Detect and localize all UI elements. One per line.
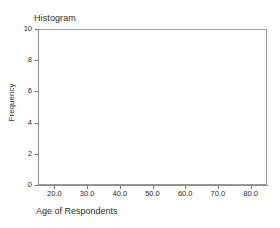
y-tick-mark — [35, 123, 38, 124]
y-tick-label: 6 — [28, 87, 32, 95]
y-tick-mark — [35, 60, 38, 61]
x-tick-label: 40.0 — [112, 190, 127, 198]
y-tick-label: 0 — [28, 181, 32, 189]
x-tick-label: 30.0 — [80, 190, 95, 198]
bars-layer — [39, 30, 266, 184]
y-tick-mark — [35, 29, 38, 30]
y-tick-mark — [35, 154, 38, 155]
y-tick-label: 2 — [28, 150, 32, 158]
x-tick-label: 80.0 — [243, 190, 258, 198]
y-tick-label: 8 — [28, 56, 32, 64]
x-axis-title: Age of Respondents — [36, 206, 118, 216]
x-tick-label: 70.0 — [211, 190, 226, 198]
x-tick-label: 50.0 — [145, 190, 160, 198]
x-tick-label: 60.0 — [178, 190, 193, 198]
plot-area — [38, 29, 267, 185]
chart-title: Histogram — [34, 13, 76, 23]
y-tick-label: 10 — [24, 25, 32, 33]
x-tick-label: 20.0 — [47, 190, 62, 198]
y-tick-mark — [35, 91, 38, 92]
y-axis-line — [38, 29, 39, 186]
y-tick-label: 4 — [28, 119, 32, 127]
y-tick-mark — [35, 185, 38, 186]
histogram-chart: Histogram 0246810 20.030.040.050.060.070… — [0, 0, 280, 228]
y-axis-title: Frequency — [7, 68, 16, 138]
